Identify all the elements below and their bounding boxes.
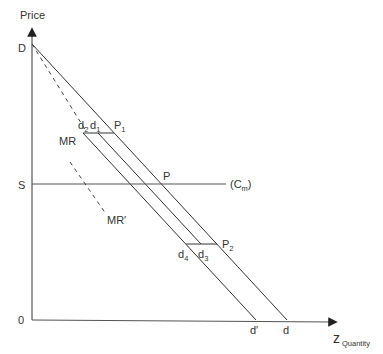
- label-S: S: [18, 179, 25, 191]
- label-P2: P2: [222, 238, 234, 253]
- mr-curve: [32, 44, 86, 131]
- label-D: D: [18, 42, 26, 54]
- label-d: d: [283, 324, 289, 336]
- label-d1: d1: [90, 119, 100, 134]
- label-MR: MR: [59, 135, 76, 147]
- x-axis-label: Quantity: [342, 339, 370, 348]
- price-quantity-diagram: Price D S 0 d2 d1 P1 MR P (Cm) MR′ P2 d4…: [0, 0, 383, 354]
- label-d3: d3: [198, 248, 208, 263]
- label-P1: P1: [114, 119, 126, 134]
- x-axis: [32, 320, 333, 322]
- origin-label: 0: [18, 314, 24, 326]
- x-axis-end-label: z: [333, 330, 340, 346]
- label-d4: d4: [178, 248, 188, 263]
- label-MR-prime: MR′: [107, 214, 126, 226]
- label-d-prime: d′: [250, 324, 258, 336]
- label-d2: d2: [78, 119, 88, 134]
- label-P: P: [163, 170, 170, 182]
- label-Cm: (Cm): [230, 178, 252, 193]
- middle-demand-line: [98, 133, 201, 244]
- y-axis-label: Price: [20, 9, 45, 21]
- inner-demand-line: [83, 133, 256, 320]
- mr-prime-curve: [70, 162, 106, 214]
